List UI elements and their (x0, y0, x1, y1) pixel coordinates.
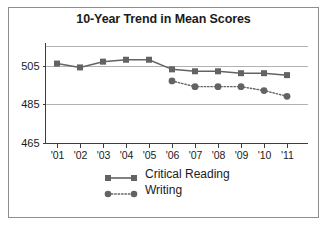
data-point-marker (169, 66, 175, 72)
data-point-marker (169, 78, 176, 85)
data-point-marker (123, 57, 129, 63)
chart-figure: 10-Year Trend in Mean Scores 465485505 '… (0, 0, 327, 226)
data-point-marker (238, 83, 245, 90)
x-tick-label: '09 (235, 149, 249, 161)
data-point-marker (192, 83, 199, 90)
data-point-marker (284, 93, 291, 100)
gridlines (46, 47, 308, 105)
data-point-marker (77, 64, 83, 70)
legend-swatch-writing (104, 185, 138, 195)
data-point-marker (215, 83, 222, 90)
x-axis-labels: '01'02'03'04'05'06'07'08'09'10'11 (51, 149, 294, 161)
x-tick-label: '07 (189, 149, 203, 161)
x-tick-label: '11 (281, 149, 294, 161)
data-point-marker (100, 59, 106, 65)
data-point-marker (261, 87, 268, 94)
legend-label-writing: Writing (145, 184, 182, 196)
x-tick-label: '02 (74, 149, 88, 161)
x-tick-label: '10 (258, 149, 272, 161)
x-tick-label: '08 (212, 149, 226, 161)
x-tick-label: '04 (120, 149, 134, 161)
x-tick-label: '05 (143, 149, 157, 161)
data-point-marker (192, 68, 198, 74)
legend-label-critical-reading: Critical Reading (145, 168, 230, 180)
data-point-marker (215, 68, 221, 74)
y-tick-label: 465 (21, 137, 39, 149)
x-tick-label: '06 (166, 149, 180, 161)
chart-legend: Critical Reading Writing (0, 168, 327, 200)
legend-item-critical-reading: Critical Reading (0, 168, 327, 180)
axes (46, 43, 308, 144)
data-point-marker (238, 70, 244, 76)
y-tick-label: 505 (21, 60, 39, 72)
data-point-marker (146, 57, 152, 63)
data-point-marker (284, 72, 290, 78)
y-tick-label: 485 (21, 98, 39, 110)
series-line-writing (172, 81, 287, 96)
tick-marks (43, 67, 288, 148)
legend-item-writing: Writing (0, 184, 327, 196)
data-point-marker (261, 70, 267, 76)
data-series (54, 57, 290, 100)
x-tick-label: '01 (51, 149, 65, 161)
legend-swatch-critical-reading (104, 169, 138, 179)
data-point-marker (54, 61, 60, 67)
y-axis-labels: 465485505 (21, 60, 39, 149)
x-tick-label: '03 (97, 149, 111, 161)
